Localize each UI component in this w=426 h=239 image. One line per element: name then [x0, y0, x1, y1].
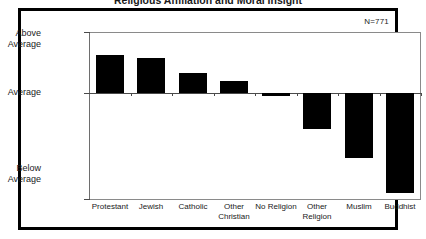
- bar-other-religion: [303, 93, 331, 129]
- bar-catholic: [179, 73, 207, 93]
- x-axis-label-buddhist: Buddhist: [372, 202, 426, 212]
- y-axis-label-average: Average: [0, 87, 41, 98]
- bar-protestant: [96, 55, 124, 93]
- y-axis-label-below-line1: Below: [16, 163, 41, 173]
- y-axis-label-above-average: Above Average: [0, 28, 41, 49]
- bar-muslim: [345, 93, 373, 158]
- x-axis-labels: ProtestantJewishCatholicOtherChristianNo…: [89, 202, 421, 232]
- x-axis-label-line: Other: [307, 202, 327, 211]
- x-tick: [380, 93, 381, 96]
- bar-jewish: [137, 58, 165, 93]
- y-axis-label-below-average: Below Average: [0, 163, 41, 184]
- y-axis-label-above-line1: Above: [15, 28, 41, 38]
- x-axis-label-line: Buddhist: [384, 202, 415, 211]
- x-axis-label-line: Muslim: [346, 202, 371, 211]
- x-tick: [297, 93, 298, 96]
- bar-no-religion: [262, 93, 290, 96]
- x-tick: [255, 93, 256, 96]
- sample-size-annotation: N=771: [364, 17, 389, 26]
- x-tick: [421, 93, 422, 96]
- x-axis-label-line: Other: [224, 202, 244, 211]
- chart-title-strip: Religious Affiliation and Moral Insight: [0, 0, 416, 7]
- x-tick: [338, 93, 339, 96]
- y-axis-label-above-line2: Average: [8, 39, 41, 49]
- x-axis-label-line: Christian: [218, 212, 250, 221]
- bars-layer: [89, 32, 421, 200]
- bar-buddhist: [386, 93, 414, 193]
- x-axis-label-line: Jewish: [139, 202, 163, 211]
- x-axis-label-line: Religion: [303, 212, 332, 221]
- x-tick: [214, 93, 215, 96]
- chart-outer-frame: Above Average Average Below Average N=77…: [18, 8, 398, 230]
- x-tick: [172, 93, 173, 96]
- x-axis-label-line: Catholic: [179, 202, 208, 211]
- bar-other-christian: [220, 81, 248, 93]
- y-axis-label-below-line2: Average: [8, 174, 41, 184]
- chart-title: Religious Affiliation and Moral Insight: [0, 0, 416, 6]
- x-tick: [131, 93, 132, 96]
